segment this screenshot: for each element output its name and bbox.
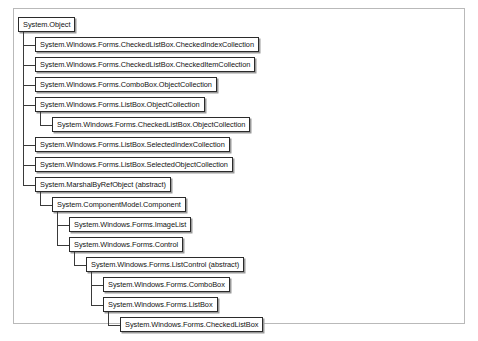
connector-horizontal bbox=[23, 65, 35, 66]
class-node-label: System.Windows.Forms.ListBox.ObjectColle… bbox=[40, 100, 200, 109]
connector-horizontal bbox=[91, 285, 103, 286]
class-node: System.ComponentModel.Component bbox=[52, 197, 186, 212]
connector-horizontal bbox=[40, 125, 52, 126]
class-node: System.Windows.Forms.CheckedListBox.Chec… bbox=[35, 37, 259, 52]
class-node-label: System.ComponentModel.Component bbox=[57, 200, 181, 209]
class-node-label: System.Windows.Forms.CheckedListBox.Chec… bbox=[40, 60, 250, 69]
connector-horizontal bbox=[74, 265, 86, 266]
connector-horizontal bbox=[57, 245, 69, 246]
class-node: System.Windows.Forms.ImageList bbox=[69, 217, 191, 232]
class-node-label: System.Windows.Forms.ComboBox bbox=[108, 280, 225, 289]
class-node-label: System.Windows.Forms.CheckedListBox.Obje… bbox=[57, 120, 245, 129]
connector-vertical bbox=[40, 192, 41, 205]
connector-horizontal bbox=[57, 225, 69, 226]
class-node-label: System.Windows.Forms.ListBox.SelectedObj… bbox=[40, 160, 228, 169]
connector-horizontal bbox=[23, 165, 35, 166]
connector-horizontal bbox=[23, 185, 35, 186]
class-node: System.Object bbox=[18, 17, 75, 32]
connector-horizontal bbox=[40, 205, 52, 206]
connector-horizontal bbox=[23, 85, 35, 86]
connector-vertical bbox=[91, 272, 92, 305]
connector-horizontal bbox=[91, 305, 103, 306]
diagram-canvas: System.ObjectSystem.Windows.Forms.Checke… bbox=[14, 9, 466, 325]
class-node-label: System.Windows.Forms.ComboBox.ObjectColl… bbox=[40, 80, 212, 89]
class-node: System.Windows.Forms.ListBox.SelectedInd… bbox=[35, 137, 230, 152]
connector-horizontal bbox=[23, 145, 35, 146]
class-node: System.Windows.Forms.CheckedListBox.Chec… bbox=[35, 57, 255, 72]
class-node: System.Windows.Forms.ListControl (abstra… bbox=[86, 257, 244, 272]
class-node: System.Windows.Forms.ListBox.ObjectColle… bbox=[35, 97, 205, 112]
class-node-label: System.Windows.Forms.CheckedListBox bbox=[125, 320, 258, 329]
diagram-page: System.ObjectSystem.Windows.Forms.Checke… bbox=[13, 8, 465, 324]
connector-horizontal bbox=[23, 45, 35, 46]
class-node: System.Windows.Forms.CheckedListBox.Obje… bbox=[52, 117, 250, 132]
class-node: System.Windows.Forms.ComboBox bbox=[103, 277, 230, 292]
connector-vertical bbox=[74, 252, 75, 265]
class-node-label: System.Windows.Forms.ListBox bbox=[108, 300, 213, 309]
connector-horizontal bbox=[23, 105, 35, 106]
connector-vertical bbox=[23, 32, 24, 185]
class-node: System.Windows.Forms.Control bbox=[69, 237, 183, 252]
class-node-label: System.MarshalByRefObject (abstract) bbox=[40, 180, 166, 189]
class-node: System.Windows.Forms.ComboBox.ObjectColl… bbox=[35, 77, 217, 92]
class-node-label: System.Windows.Forms.Control bbox=[74, 240, 178, 249]
class-node-label: System.Windows.Forms.ListControl (abstra… bbox=[91, 260, 239, 269]
class-node-label: System.Windows.Forms.CheckedListBox.Chec… bbox=[40, 40, 254, 49]
connector-vertical bbox=[108, 312, 109, 325]
class-node-label: System.Object bbox=[23, 20, 70, 29]
connector-vertical bbox=[40, 112, 41, 125]
class-node-label: System.Windows.Forms.ImageList bbox=[74, 220, 186, 229]
class-node: System.MarshalByRefObject (abstract) bbox=[35, 177, 171, 192]
class-node: System.Windows.Forms.ListBox bbox=[103, 297, 218, 312]
class-node: System.Windows.Forms.ListBox.SelectedObj… bbox=[35, 157, 233, 172]
connector-vertical bbox=[57, 212, 58, 245]
class-node-label: System.Windows.Forms.ListBox.SelectedInd… bbox=[40, 140, 225, 149]
class-node: System.Windows.Forms.CheckedListBox bbox=[120, 317, 263, 332]
connector-horizontal bbox=[108, 325, 120, 326]
